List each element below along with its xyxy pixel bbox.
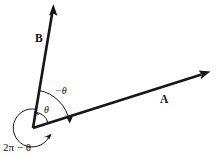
- diagram-canvas: B A θ −θ 2π − θ: [0, 0, 219, 157]
- angle-theta-label: θ: [44, 104, 49, 115]
- vector-a-shaft: [33, 75, 202, 128]
- vector-a-label: A: [160, 93, 169, 105]
- vector-angle-diagram: B A θ −θ 2π − θ: [0, 0, 219, 157]
- angle-negative-theta-label: −θ: [55, 85, 67, 96]
- vector-b-label: B: [35, 32, 43, 44]
- angle-two-pi-minus-theta-label: 2π − θ: [3, 141, 31, 153]
- angle-two-pi-minus-theta-arrowhead: [43, 134, 52, 139]
- vector-b-shaft: [33, 13, 52, 128]
